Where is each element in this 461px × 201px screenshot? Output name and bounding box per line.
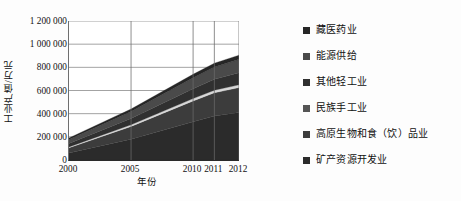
legend-label: 藏医药业 [316, 24, 357, 36]
legend-item[interactable]: 民族手工业 [303, 95, 459, 121]
legend-label: 民族手工业 [316, 102, 367, 114]
legend-item[interactable]: 能源供给 [303, 43, 459, 69]
legend-label: 其他轻工业 [316, 76, 367, 88]
x-axis-tick-label: 2011 [204, 163, 222, 175]
y-axis-tick-label: 200 000 [15, 132, 67, 142]
legend-label: 矿产资源开发业 [316, 154, 387, 166]
y-axis-tick-label: 1 000 000 [15, 39, 67, 49]
legend-swatch-icon [303, 79, 310, 86]
y-axis-tick-label: 600 000 [15, 86, 67, 96]
x-axis-tick-label: 2005 [121, 163, 140, 175]
chart-legend: 藏医药业能源供给其他轻工业民族手工业高原生物和食（饮）品业矿产资源开发业 [303, 17, 459, 173]
x-axis-tick-label: 2000 [59, 163, 78, 175]
legend-swatch-icon [303, 105, 310, 112]
legend-label: 高原生物和食（饮）品业 [316, 128, 428, 140]
plot-area [68, 21, 239, 161]
legend-swatch-icon [303, 53, 310, 60]
legend-item[interactable]: 矿产资源开发业 [303, 147, 459, 173]
legend-swatch-icon [303, 131, 310, 138]
stacked-area-series-group [69, 21, 239, 160]
legend-item[interactable]: 高原生物和食（饮）品业 [303, 121, 459, 147]
y-axis-tick-label: 800 000 [15, 62, 67, 72]
chart-figure: 工业产值/万元 0200 000400 000600 000800 0001 0… [0, 0, 461, 201]
x-axis-title: 年份 [137, 176, 157, 188]
x-axis-tick-label: 2010 [183, 163, 202, 175]
y-axis-tick-label: 1 200 000 [15, 16, 67, 26]
legend-item[interactable]: 其他轻工业 [303, 69, 459, 95]
legend-label: 能源供给 [316, 50, 357, 62]
legend-swatch-icon [303, 157, 310, 164]
legend-item[interactable]: 藏医药业 [303, 17, 459, 43]
legend-swatch-icon [303, 27, 310, 34]
y-axis-tick-label: 400 000 [15, 109, 67, 119]
x-axis-tick-label: 2012 [229, 163, 248, 175]
